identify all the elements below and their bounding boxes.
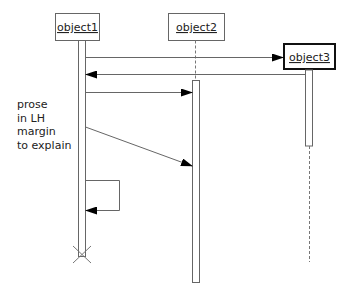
object3-lifeline-group: object3 — [284, 44, 335, 262]
margin-prose: prose in LH margin to explain — [17, 98, 71, 152]
object2-label: object2 — [176, 21, 217, 34]
object3-activation-bar — [306, 70, 313, 146]
prose-line: prose — [17, 98, 71, 112]
self-message-object1 — [86, 181, 120, 211]
object2-activation-bar — [193, 81, 200, 283]
message-object1-to-object2-diagonal — [86, 127, 193, 166]
prose-line: in LH — [17, 112, 71, 126]
object1-label: object1 — [57, 21, 98, 34]
prose-line: to explain — [17, 139, 71, 153]
prose-line: margin — [17, 125, 71, 139]
object2-lifeline-group: object2 — [169, 14, 225, 283]
object1-activation-bar — [79, 41, 86, 257]
object3-label: object3 — [289, 51, 330, 64]
